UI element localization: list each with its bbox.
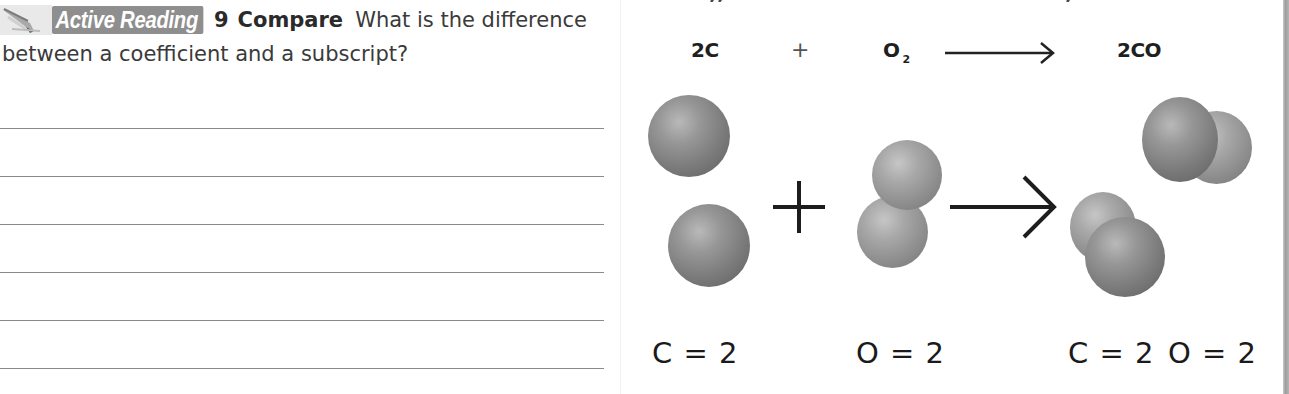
plus-icon [773,180,827,238]
count-product-oxygen: O = 2 [1168,336,1257,370]
carbon-atom-1 [648,95,730,177]
answer-line-4[interactable] [0,272,604,273]
worksheet-page: Active Reading 9 Compare What is the dif… [0,0,1289,394]
answer-line-3[interactable] [0,224,604,225]
question-text-1: What is the difference [355,3,587,37]
answer-line-6[interactable] [0,368,604,369]
question-prompt: Active Reading 9 Compare What is the dif… [2,3,612,71]
carbon-atom-2 [668,204,750,287]
clipped-text-above [711,0,1131,3]
equation-plus: + [791,37,809,62]
equation-figure: 2C + O2 2CO [621,0,1283,394]
count-reactant-1: C = 2 [652,336,738,370]
question-text-2: between a coefficient and a subscript? [2,37,612,71]
equation-reactant-2: O2 [883,38,910,66]
right-arrow-icon [948,174,1060,244]
question-keyword: Compare [238,3,344,37]
equation-product: 2CO [1117,38,1161,62]
page-edge [1283,0,1289,394]
badge-label: Active Reading [52,6,203,34]
answer-line-1[interactable] [0,128,604,129]
count-reactant-2: O = 2 [856,336,945,370]
o2-base: O [883,38,900,62]
pencil-icon [0,5,52,35]
long-right-arrow-icon [945,41,1057,69]
active-reading-section: Active Reading 9 Compare What is the dif… [0,0,612,394]
carbon-atom-co1 [1142,97,1218,182]
equation-reactant-1: 2C [691,38,719,62]
question-line-1: Active Reading 9 Compare What is the dif… [2,3,612,37]
oxygen-atom-1 [872,140,942,210]
answer-line-5[interactable] [0,320,604,321]
count-product-carbon: C = 2 [1068,336,1154,370]
answer-line-2[interactable] [0,176,604,177]
question-number: 9 [214,3,229,37]
active-reading-badge: Active Reading [0,5,206,35]
carbon-atom-co2 [1085,217,1165,297]
o2-subscript: 2 [903,53,910,66]
